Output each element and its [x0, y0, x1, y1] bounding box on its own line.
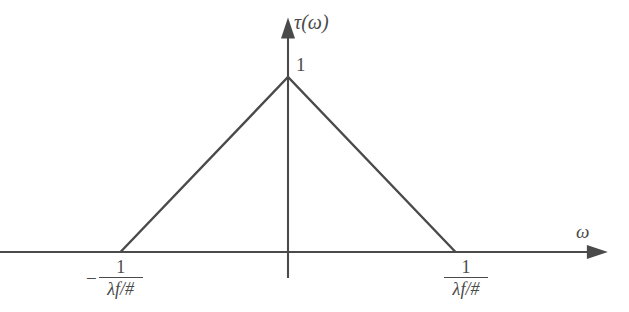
y-axis-title: τ(ω)	[294, 12, 329, 32]
x-axis-title: ω	[576, 222, 589, 241]
x-axis-arrowhead	[587, 245, 608, 259]
fraction-right-numerator: 1	[460, 258, 473, 277]
x-tick-label-left: − 1 λf/#	[86, 258, 143, 298]
y-axis-arrowhead	[281, 18, 295, 39]
optical-transfer-function-figure: τ(ω) 1 ω − 1 λf/# 1 λf/#	[0, 0, 629, 312]
peak-value-text: 1	[296, 54, 306, 75]
fraction-right: 1 λf/#	[444, 258, 488, 298]
fraction-left-denominator: λf/#	[105, 278, 136, 298]
x-axis-title-text: ω	[576, 221, 589, 242]
y-axis-title-text: τ(ω)	[294, 11, 329, 33]
minus-sign: −	[86, 268, 97, 290]
peak-value-label: 1	[296, 55, 306, 74]
fraction-right-denominator: λf/#	[451, 278, 482, 298]
fraction-left: 1 λf/#	[99, 258, 143, 298]
fraction-left-numerator: 1	[114, 258, 127, 277]
x-tick-label-right: 1 λf/#	[444, 258, 488, 298]
